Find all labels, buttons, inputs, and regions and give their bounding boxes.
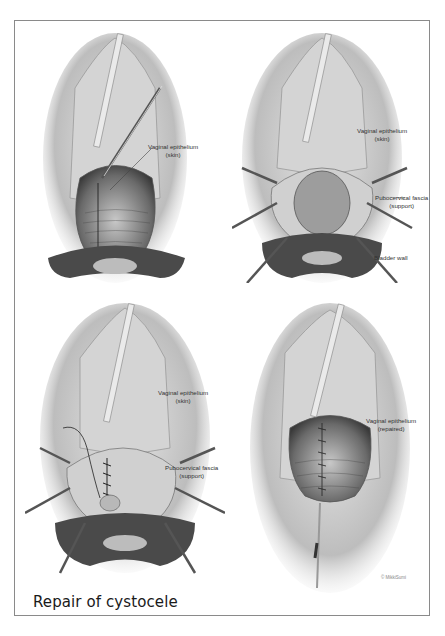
copyright-notice: © MikkiSumi xyxy=(381,575,406,580)
label-bladder-wall: Bladder wall xyxy=(374,254,408,262)
label-pubocervical-fascia-2: Pubocervical fascia (support) xyxy=(375,194,428,209)
illustration-panel-plication xyxy=(25,298,225,578)
plication-illustration xyxy=(25,298,225,578)
repaired-illustration xyxy=(245,298,420,593)
label-pubocervical-fascia-3: Pubocervical fascia (support) xyxy=(165,464,218,479)
dissection-illustration xyxy=(232,28,422,283)
illustration-panel-dissection xyxy=(232,28,422,283)
label-vaginal-epithelium-repaired: Vaginal epithelium (repaired) xyxy=(366,417,416,432)
illustration-panel-repaired xyxy=(245,298,420,593)
label-vaginal-epithelium-2: Vaginal epithelium (skin) xyxy=(357,127,407,142)
label-vaginal-epithelium-1: Vaginal epithelium (skin) xyxy=(148,143,198,158)
label-vaginal-epithelium-3: Vaginal epithelium (skin) xyxy=(158,389,208,404)
figure-caption: Repair of cystocele xyxy=(33,593,178,611)
